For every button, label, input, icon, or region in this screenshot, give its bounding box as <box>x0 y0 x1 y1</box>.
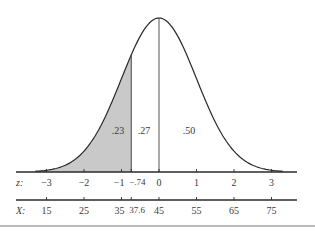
area-label: .27 <box>138 125 151 136</box>
tick-label: −3 <box>41 177 52 188</box>
tick-label: 35 <box>115 205 125 216</box>
tick-label: −.74 <box>129 177 146 187</box>
tick-label: 75 <box>267 205 277 216</box>
x-axis-label: X: <box>15 205 25 216</box>
tick-label: 55 <box>192 205 202 216</box>
area-label: .23 <box>112 125 125 136</box>
tick-label: −2 <box>79 177 90 188</box>
tick-label: 45 <box>154 205 164 216</box>
tick-label: 37.6 <box>129 205 145 215</box>
tick-label: 1 <box>194 177 199 188</box>
tick-label: 0 <box>157 177 162 188</box>
shaded-tail-region <box>35 55 131 172</box>
tick-label: 15 <box>42 205 52 216</box>
tick-label: −1 <box>114 177 125 188</box>
tick-label: 3 <box>269 177 274 188</box>
area-label: .50 <box>183 125 196 136</box>
normal-distribution-figure: .23.27.50 −3−2−1−.740123 z: 15253537.645… <box>0 0 315 235</box>
shaded-area <box>35 55 131 172</box>
tick-label: 25 <box>79 205 89 216</box>
tick-label: 2 <box>232 177 237 188</box>
z-axis-label: z: <box>15 177 23 188</box>
tick-label: 65 <box>229 205 239 216</box>
